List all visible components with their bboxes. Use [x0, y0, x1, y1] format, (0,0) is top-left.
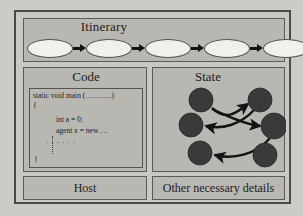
- state-nodes: [179, 88, 286, 167]
- state-edge-n1-n2: [212, 104, 248, 115]
- code-line-1: {: [33, 101, 37, 110]
- itinerary-arrow-icon-3: [191, 44, 204, 53]
- state-node-n2: [248, 88, 272, 112]
- itinerary-title: Itinerary: [24, 19, 184, 35]
- host-label: Host: [74, 181, 97, 196]
- state-graph: [153, 68, 286, 173]
- other-details-panel: Other necessary details: [152, 176, 285, 200]
- code-line-0: static void main (………..): [33, 91, 114, 100]
- code-line-5: }: [34, 155, 38, 164]
- diagram-canvas: Itinerary: [0, 0, 303, 216]
- code-listing-box: static void main (………..) { int a = 0; ag…: [29, 88, 143, 168]
- code-line-4: . . . . . .: [46, 137, 76, 145]
- code-line-2: int a = 0;: [56, 115, 83, 124]
- state-node-n5: [188, 141, 212, 165]
- itinerary-arrow-icon-4: [250, 44, 263, 53]
- itinerary-node-4: [204, 39, 250, 58]
- code-panel: Code static void main (………..) { int a = …: [23, 67, 147, 172]
- code-title: Code: [24, 69, 148, 85]
- other-details-label: Other necessary details: [163, 181, 274, 196]
- code-line-3: agent x = new….: [56, 126, 108, 135]
- itinerary-node-1: [27, 39, 73, 58]
- host-panel: Host: [23, 176, 147, 200]
- itinerary-node-3: [145, 39, 191, 58]
- itinerary-node-5: [263, 39, 303, 58]
- state-node-n3: [179, 113, 203, 137]
- itinerary-panel: Itinerary: [23, 18, 285, 62]
- state-node-n6: [253, 143, 277, 167]
- state-node-n1: [189, 88, 213, 112]
- state-panel: State: [152, 67, 285, 172]
- itinerary-node-chain: [27, 37, 283, 59]
- itinerary-arrow-icon-1: [73, 44, 86, 53]
- itinerary-node-2: [86, 39, 132, 58]
- agent-outer-frame: Itinerary: [14, 10, 291, 204]
- state-edge-n2-n3: [206, 110, 254, 127]
- state-node-n4: [261, 113, 286, 139]
- itinerary-arrow-icon-2: [132, 44, 145, 53]
